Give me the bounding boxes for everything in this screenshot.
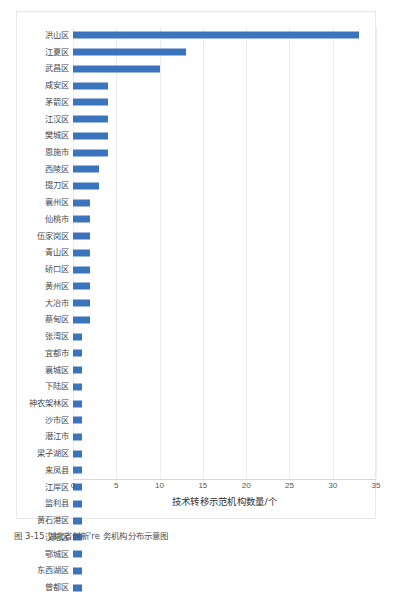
bar-track — [73, 378, 376, 395]
bar-row: 伍家岗区 — [0, 228, 394, 245]
bar-row: 掇刀区 — [0, 178, 394, 195]
bar-track — [73, 445, 376, 462]
bar — [73, 417, 82, 424]
bar-row: 大冶市 — [0, 295, 394, 312]
bar — [73, 266, 90, 273]
bar — [73, 166, 99, 173]
bar-track — [73, 412, 376, 429]
x-axis-title: 技术转移示范机构数量/个 — [73, 494, 376, 508]
bar — [73, 567, 82, 574]
bar-track — [73, 512, 376, 529]
category-label: 洪山区 — [0, 31, 69, 40]
bar — [73, 551, 82, 558]
bar-track — [73, 462, 376, 479]
bar — [73, 350, 82, 357]
bar-track — [73, 111, 376, 128]
category-label: 鄂城区 — [0, 550, 69, 559]
x-tick-label: 30 — [328, 481, 337, 490]
bar — [73, 450, 82, 457]
bar — [73, 400, 82, 407]
category-label: 梁子湖区 — [0, 449, 69, 458]
bar-track — [73, 44, 376, 61]
x-tick-label: 35 — [372, 481, 381, 490]
bar-row: 张湾区 — [0, 328, 394, 345]
bar-track — [73, 245, 376, 262]
category-label: 宜都市 — [0, 349, 69, 358]
category-label: 大冶市 — [0, 299, 69, 308]
bar-row: 硚口区 — [0, 261, 394, 278]
x-tick-label: 15 — [198, 481, 207, 490]
category-label: 伍家岗区 — [0, 232, 69, 241]
category-label: 硚口区 — [0, 265, 69, 274]
category-label: 神农架林区 — [0, 399, 69, 408]
bar-row: 西陵区 — [0, 161, 394, 178]
bar-track — [73, 395, 376, 412]
bar-row: 襄城区 — [0, 362, 394, 379]
category-label: 江夏区 — [0, 48, 69, 57]
bar — [73, 333, 82, 340]
x-tick-label: 0 — [71, 481, 75, 490]
bar-row: 沙市区 — [0, 412, 394, 429]
bar-track — [73, 77, 376, 94]
bar-row: 茅箭区 — [0, 94, 394, 111]
bar-row: 潜江市 — [0, 429, 394, 446]
bar-row: 黄州区 — [0, 278, 394, 295]
bar-track — [73, 579, 376, 596]
bar-track — [73, 429, 376, 446]
bar — [73, 433, 82, 440]
bar — [73, 300, 90, 307]
category-label: 沙市区 — [0, 416, 69, 425]
bar-track — [73, 362, 376, 379]
bar-track — [73, 261, 376, 278]
category-label: 监利县 — [0, 499, 69, 508]
bar-row: 樊城区 — [0, 127, 394, 144]
bar-track — [73, 211, 376, 228]
bar-row: 鄂城区 — [0, 546, 394, 563]
bar-rows: 洪山区江夏区武昌区咸安区茅箭区江汉区樊城区恩施市西陵区掇刀区襄州区仙桃市伍家岗区… — [0, 27, 394, 479]
category-label: 江汉区 — [0, 115, 69, 124]
bar-track — [73, 178, 376, 195]
bar-row: 武昌区 — [0, 60, 394, 77]
category-label: 樊城区 — [0, 131, 69, 140]
bar — [73, 316, 90, 323]
bar — [73, 65, 160, 72]
category-label: 西陵区 — [0, 165, 69, 174]
bar-row: 曾都区 — [0, 579, 394, 596]
category-label: 黄石港区 — [0, 516, 69, 525]
bar — [73, 233, 90, 240]
x-tick-label: 5 — [114, 481, 118, 490]
bar — [73, 116, 108, 123]
category-label: 江岸区 — [0, 483, 69, 492]
category-label: 恩施市 — [0, 148, 69, 157]
bar-track — [73, 546, 376, 563]
bar-row: 江汉区 — [0, 111, 394, 128]
category-label: 襄城区 — [0, 366, 69, 375]
bar-row: 咸安区 — [0, 77, 394, 94]
bar-row: 蔡甸区 — [0, 311, 394, 328]
bar — [73, 149, 108, 156]
bar-row: 襄州区 — [0, 194, 394, 211]
bar-track — [73, 127, 376, 144]
bar-row: 东西湖区 — [0, 563, 394, 580]
bar — [73, 32, 359, 39]
bar-track — [73, 161, 376, 178]
bar — [73, 216, 90, 223]
bar-row: 黄石港区 — [0, 512, 394, 529]
bar-track — [73, 144, 376, 161]
bar — [73, 182, 99, 189]
x-tick-label: 25 — [285, 481, 294, 490]
category-label: 黄州区 — [0, 282, 69, 291]
bar — [73, 199, 90, 206]
bar — [73, 283, 90, 290]
x-tick-label: 20 — [242, 481, 251, 490]
category-label: 仙桃市 — [0, 215, 69, 224]
bar-row: 仙桃市 — [0, 211, 394, 228]
category-label: 来凤县 — [0, 466, 69, 475]
bar — [73, 99, 108, 106]
bar-track — [73, 295, 376, 312]
bar-track — [73, 194, 376, 211]
bar-track — [73, 228, 376, 245]
x-tick-label: 10 — [155, 481, 164, 490]
category-label: 曾都区 — [0, 583, 69, 592]
bar-track — [73, 328, 376, 345]
